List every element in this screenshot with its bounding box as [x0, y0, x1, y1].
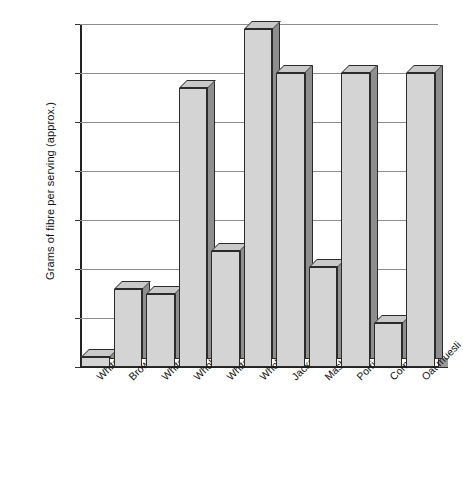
bar-wholemeal-bread[interactable]	[179, 24, 208, 367]
bar-porridge[interactable]	[341, 24, 370, 367]
bar-white-pasta[interactable]	[211, 24, 240, 367]
bar-front-face	[179, 88, 208, 367]
bar-jacket-potato[interactable]	[276, 24, 305, 367]
bar-front-face	[341, 73, 370, 367]
bar-brown-rice[interactable]	[114, 24, 143, 367]
bar-white-rice[interactable]	[81, 24, 110, 367]
bar-front-face	[211, 251, 240, 367]
bar-front-face	[244, 29, 273, 367]
bar-front-face	[114, 289, 143, 367]
bar-front-face	[374, 323, 403, 367]
bar-front-face	[309, 267, 338, 367]
bar-mashed-potato[interactable]	[309, 24, 338, 367]
bar-cornflakes[interactable]	[374, 24, 403, 367]
bar-front-face	[81, 357, 110, 367]
bar-side-face	[435, 65, 443, 359]
bars-group	[80, 24, 438, 367]
bar-wholemeal-pasta[interactable]	[244, 24, 273, 367]
bar-front-face	[276, 73, 305, 367]
bar-side-face	[370, 65, 378, 359]
bar-front-face	[146, 294, 175, 368]
plot-area: 00.511.522.533.5	[80, 24, 438, 367]
y-axis-title: Grams of fibre per serving (approx.)	[44, 71, 56, 311]
bar-oat-muesli[interactable]	[406, 24, 435, 367]
bar-white-bread[interactable]	[146, 24, 175, 367]
bar-front-face	[406, 73, 435, 367]
